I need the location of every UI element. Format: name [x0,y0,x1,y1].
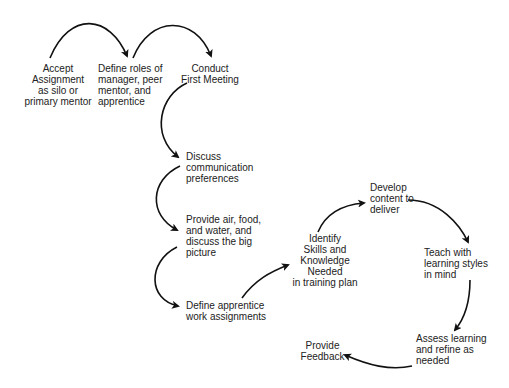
node-define-apprentice-work: Define apprentice work assignments [186,300,266,322]
node-text: Discuss [186,151,253,162]
node-conduct-first-meeting: Conduct First Meeting [170,63,250,85]
arrows-layer [0,0,509,388]
node-text: Provide air, food, [186,214,261,225]
node-text: manager, peer [98,74,163,85]
node-text: in training plan [290,277,360,288]
node-teach-learning-styles: Teach with learning styles in mind [424,247,488,280]
node-assess-learning: Assess learning and refine as needed [416,333,487,366]
node-text: and refine as [416,344,487,355]
arrow-discuss-to-provide-air [156,166,180,230]
node-text: Develop [370,182,414,193]
node-text: learning styles [424,258,488,269]
arrow-identify-to-develop [318,203,364,232]
node-text: picture [186,247,261,258]
node-text: preferences [186,173,253,184]
node-text: in mind [424,269,488,280]
node-text: Provide [295,340,350,351]
node-text: Conduct [170,63,250,74]
node-text: primary mentor [18,96,98,107]
node-text: Define apprentice [186,300,266,311]
node-text: Accept [18,63,98,74]
node-discuss-communication: Discuss communication preferences [186,151,253,184]
node-text: Feedback [295,351,350,362]
node-text: deliver [370,204,414,215]
arrow-develop-to-teach [408,200,468,242]
arrow-accept-to-define-roles [50,24,127,58]
arrow-assess-to-feedback [345,355,412,368]
node-text: Assignment [18,74,98,85]
node-text: First Meeting [170,74,250,85]
node-text: work assignments [186,311,266,322]
node-text: mentor, and [98,85,163,96]
arrow-provide-air-to-define-work [155,247,178,306]
node-text: discuss the big [186,236,261,247]
node-text: needed [416,355,487,366]
node-text: Teach with [424,247,488,258]
node-text: communication [186,162,253,173]
node-text: Assess learning [416,333,487,344]
node-text: Skills and [290,244,360,255]
node-text: Knowledge [290,255,360,266]
arrow-define-work-to-identify [242,265,288,298]
arrow-conduct-to-discuss [161,83,187,157]
node-provide-air-food-water: Provide air, food, and water, and discus… [186,214,261,258]
node-text: Needed [290,266,360,277]
node-text: apprentice [98,96,163,107]
node-text: Identify [290,233,360,244]
arrow-teach-to-assess [455,280,470,330]
node-identify-skills: Identify Skills and Knowledge Needed in … [290,233,360,288]
node-text: content to [370,193,414,204]
node-develop-content: Develop content to deliver [370,182,414,215]
node-provide-feedback: Provide Feedback [295,340,350,362]
node-text: Define roles of [98,63,163,74]
node-accept-assignment: Accept Assignment as silo or primary men… [18,63,98,107]
node-define-roles: Define roles of manager, peer mentor, an… [98,63,163,107]
node-text: as silo or [18,85,98,96]
arrow-define-roles-to-conduct [133,25,211,58]
node-text: and water, and [186,225,261,236]
